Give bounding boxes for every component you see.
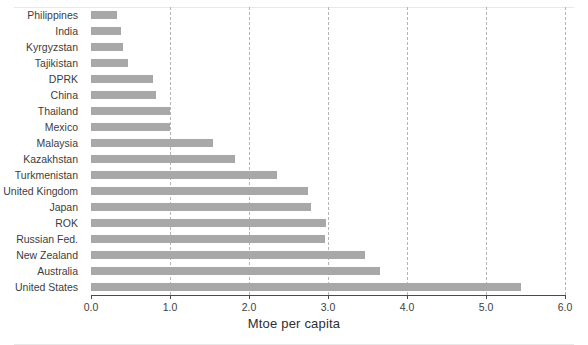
bar: [91, 155, 235, 163]
x-axis-tick-label: 2.0: [242, 301, 257, 313]
x-axis-tick: [565, 295, 566, 299]
category-label: Tajikistan: [0, 57, 78, 69]
bar: [91, 219, 326, 227]
x-axis-tick: [486, 295, 487, 299]
gridline: [565, 7, 566, 295]
cropped-title: [0, 0, 588, 7]
x-axis-tick-label: 0.0: [84, 301, 99, 313]
gridline: [486, 7, 487, 295]
category-label: Turkmenistan: [0, 169, 78, 181]
category-label: Thailand: [0, 105, 78, 117]
x-axis-tick: [170, 295, 171, 299]
gridline: [407, 7, 408, 295]
x-axis-title: Mtoe per capita: [0, 316, 588, 331]
bar: [91, 11, 117, 19]
category-label: Russian Fed.: [0, 233, 78, 245]
category-label: Philippines: [0, 9, 78, 21]
category-label: India: [0, 25, 78, 37]
category-label: Mexico: [0, 121, 78, 133]
bar: [91, 27, 121, 35]
bar: [91, 171, 277, 179]
x-axis-tick: [328, 295, 329, 299]
bar: [91, 187, 308, 195]
x-axis-tick-label: 6.0: [558, 301, 573, 313]
category-label: Malaysia: [0, 137, 78, 149]
category-label: Australia: [0, 265, 78, 277]
category-label: United States: [0, 281, 78, 293]
bar: [91, 283, 521, 291]
bar: [91, 43, 123, 51]
bar: [91, 59, 128, 67]
x-axis-tick-label: 3.0: [321, 301, 336, 313]
bar: [91, 107, 170, 115]
x-axis-tick-label: 5.0: [479, 301, 494, 313]
bar: [91, 91, 156, 99]
bar: [91, 75, 153, 83]
bar-chart: PhilippinesIndiaKyrgyzstanTajikistanDPRK…: [0, 0, 588, 345]
plot-area: [91, 7, 565, 295]
x-axis-tick: [407, 295, 408, 299]
x-axis-tick-label: 4.0: [400, 301, 415, 313]
category-label: Kazakhstan: [0, 153, 78, 165]
category-label: China: [0, 89, 78, 101]
bar: [91, 139, 213, 147]
x-axis-tick: [249, 295, 250, 299]
bar: [91, 267, 380, 275]
bar: [91, 235, 325, 243]
bar: [91, 123, 170, 131]
category-label: DPRK: [0, 73, 78, 85]
x-axis-tick-label: 1.0: [163, 301, 178, 313]
category-label: Japan: [0, 201, 78, 213]
bar: [91, 251, 365, 259]
category-label: United Kingdom: [0, 185, 78, 197]
bar: [91, 203, 311, 211]
category-label: Kyrgyzstan: [0, 41, 78, 53]
category-axis-labels: PhilippinesIndiaKyrgyzstanTajikistanDPRK…: [0, 7, 78, 295]
x-axis-tick: [91, 295, 92, 299]
category-label: New Zealand: [0, 249, 78, 261]
category-label: ROK: [0, 217, 78, 229]
